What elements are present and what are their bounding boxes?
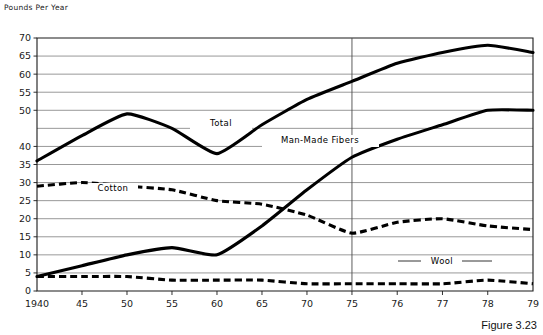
x-tick-label: 50 xyxy=(121,298,133,309)
series-label-man-made-fibers: Man-Made Fibers xyxy=(281,135,359,145)
figure-caption: Figure 3.23 xyxy=(481,319,537,331)
y-tick-label: 55 xyxy=(19,87,31,98)
y-tick-label: 50 xyxy=(19,105,31,116)
y-tick-label: 20 xyxy=(19,213,31,224)
y-tick-label: 5 xyxy=(25,267,31,278)
y-tick-label: 65 xyxy=(19,50,31,61)
y-tick-label: 15 xyxy=(19,231,31,242)
y-axis-ticks: 05101520253035405055606570 xyxy=(19,32,37,296)
line-chart-plot: 0510152025303540505560657019404550556065… xyxy=(0,0,543,335)
y-tick-label: 70 xyxy=(19,32,31,43)
x-tick-label: 65 xyxy=(256,298,268,309)
figure-container: Pounds Per Year 051015202530354050556065… xyxy=(0,0,543,335)
y-tick-label: 60 xyxy=(19,69,31,80)
y-tick-label: 30 xyxy=(19,177,31,188)
x-tick-label: 60 xyxy=(211,298,223,309)
y-tick-label: 35 xyxy=(19,159,31,170)
x-tick-label: 45 xyxy=(76,298,88,309)
series-label-cotton: Cotton xyxy=(98,183,129,193)
x-tick-label: 55 xyxy=(166,298,178,309)
y-tick-label: 0 xyxy=(25,285,31,296)
x-axis-ticks: 19404550556065707576777879 xyxy=(25,291,539,309)
x-tick-label: 70 xyxy=(301,298,313,309)
x-tick-label: 76 xyxy=(391,298,403,309)
series-annotations: TotalMan-Made FibersCottonWool xyxy=(89,118,492,268)
x-tick-label: 1940 xyxy=(25,298,49,309)
x-tick-label: 79 xyxy=(527,298,539,309)
y-tick-label: 40 xyxy=(19,141,31,152)
x-tick-label: 75 xyxy=(346,298,358,309)
series-line-wool xyxy=(37,276,533,283)
series-label-total: Total xyxy=(209,118,232,128)
series-label-wool: Wool xyxy=(431,256,453,266)
x-tick-label: 78 xyxy=(482,298,494,309)
y-tick-label: 25 xyxy=(19,195,31,206)
gridlines xyxy=(37,56,533,273)
x-tick-label: 77 xyxy=(436,298,448,309)
y-tick-label: 10 xyxy=(19,249,31,260)
